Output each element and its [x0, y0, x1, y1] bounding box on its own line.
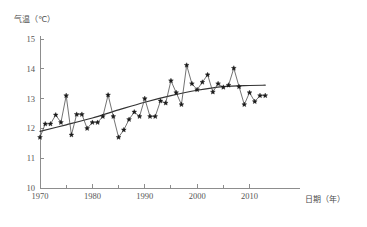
data-point-marker [247, 90, 252, 95]
data-point-marker [158, 98, 163, 103]
x-tick-label: 1970 [32, 191, 49, 201]
data-point-marker [69, 132, 74, 137]
data-point-marker [205, 72, 210, 77]
series-polyline [40, 65, 265, 137]
data-point-marker [111, 114, 116, 119]
data-point-marker [142, 96, 147, 101]
data-point-marker [48, 121, 53, 126]
y-axis-title: 气温（℃） [14, 14, 55, 24]
data-point-markers [38, 63, 268, 140]
temperature-trend-chart: 气温（℃） 日期（年） 151413121110 197019801990200… [0, 0, 367, 227]
data-point-marker [179, 102, 184, 107]
y-tick-label: 13 [27, 94, 36, 104]
x-tick-label: 2000 [189, 191, 206, 201]
x-tick-label: 2010 [241, 191, 258, 201]
data-point-marker [237, 84, 242, 89]
y-tick-label: 11 [27, 153, 35, 163]
y-tick-label: 12 [27, 123, 36, 133]
data-point-marker [43, 121, 48, 126]
data-point-marker [80, 112, 85, 117]
data-point-marker [184, 63, 189, 68]
y-axis-ticks: 151413121110 [27, 34, 45, 193]
data-point-marker [121, 127, 126, 132]
x-tick-label: 1990 [136, 191, 153, 201]
data-point-marker [231, 66, 236, 71]
data-point-marker [210, 90, 215, 95]
data-point-marker [169, 78, 174, 83]
data-point-marker [74, 112, 79, 117]
data-point-marker [38, 135, 43, 140]
data-point-marker [148, 114, 153, 119]
data-point-marker [221, 85, 226, 90]
x-axis-title: 日期（年） [305, 194, 345, 204]
data-point-marker [53, 112, 58, 117]
data-point-marker [263, 93, 268, 98]
x-tick-label: 1980 [84, 191, 101, 201]
data-point-marker [242, 102, 247, 107]
data-point-marker [64, 93, 69, 98]
data-point-marker [153, 114, 158, 119]
chart-canvas: 气温（℃） 日期（年） 151413121110 197019801990200… [0, 0, 367, 227]
y-tick-label: 15 [27, 34, 36, 44]
data-point-marker [106, 93, 111, 98]
y-tick-label: 14 [27, 64, 36, 74]
x-axis-ticks: 19701980199020002010 [32, 184, 259, 201]
data-point-marker [163, 101, 168, 106]
